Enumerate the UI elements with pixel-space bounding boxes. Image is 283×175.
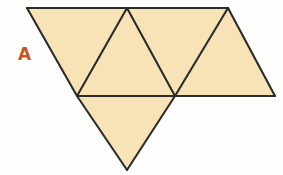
- net-label-a: A: [18, 46, 31, 63]
- bottom-flap-triangle: [77, 96, 175, 170]
- net-diagram-figure: A: [0, 0, 283, 175]
- net-diagram-svg: [0, 0, 283, 175]
- triangle-faces-group: [27, 8, 275, 170]
